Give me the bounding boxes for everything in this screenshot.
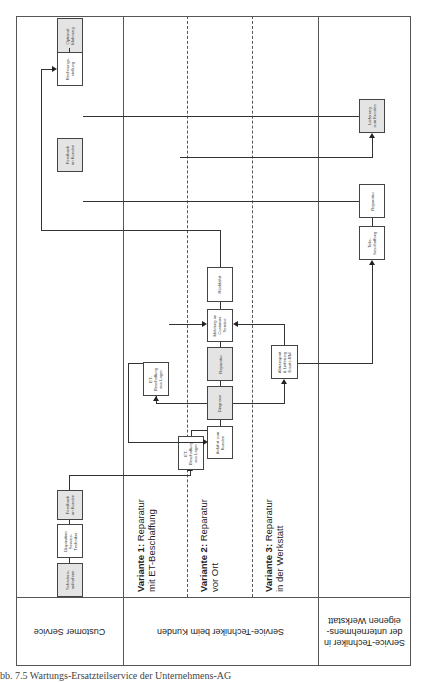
variant-label-1: Variante 1: Reparaturmit ET-Beschaffung [135, 499, 157, 592]
box-rechnungsstellung: Rechnungs- stellung [57, 52, 83, 86]
figure-caption: bb. 7.5 Wartungs-Ersatzteilservice der U… [0, 670, 231, 681]
connector-abtransport-teile-h [298, 363, 373, 364]
lane-separator-customer-service [123, 16, 124, 666]
connector-meldung-rueckfahrt [220, 302, 221, 309]
connector-abtransport-teile-v [372, 262, 373, 364]
arrow-to-et-v1 [153, 396, 159, 401]
box-lieferung-zum-kunden: Lieferung zum Kunden [359, 99, 385, 133]
connector-to-lieferung-v [372, 135, 373, 158]
connector-dispo-feedback [69, 520, 70, 524]
box-et-beschaffung-aus-lager-v1: ET- Beschaffung aus Lager [143, 362, 169, 396]
connector-rueckfahrt-h [41, 230, 221, 231]
connector-abtransport-meldung-v [284, 324, 285, 345]
box-teilebeschaffung: Teile- beschaffung [359, 226, 385, 260]
box-optional-mahnung: Optional: Mahnung [57, 18, 83, 53]
connector-feedback-to-et-lager-v [69, 475, 70, 490]
lane-header-customer-service: Customer Service [16, 597, 123, 667]
connector-et-lager-anfahrt-h [191, 430, 207, 431]
lane-header-service-techniker-werkstatt: Service-Techniker in der unternehmens- e… [318, 597, 411, 667]
box-diagnose: Diagnose [207, 386, 233, 420]
connector-feedback-to-et-lager-h [69, 475, 190, 476]
box-schadensaufnahme: Schadens- aufnahme [57, 563, 83, 597]
connector-rueckfahrt-v-left [41, 69, 42, 231]
variant-label-3: Variante 3: Reparaturin der Werkstatt [263, 499, 285, 592]
lane-header-service-techniker-kunden: Service-Techniker beim Kunden [123, 597, 318, 667]
connector-schaden-dispo [69, 558, 70, 563]
connector-et-v1-anfahrt-bottom [128, 442, 204, 443]
connector-to-lieferung-h [180, 157, 373, 158]
connector-et-v1-anfahrt-v [128, 363, 129, 443]
lane-separator-variant-2-3 [252, 16, 253, 597]
box-meldung-customer-service: Meldung an Customer Service [207, 309, 233, 342]
connector-et-v1-anfahrt-top [128, 363, 143, 364]
arrow-to-rechnungsstellung [52, 66, 57, 72]
box-feedback-initial: Feedback an Kunden [57, 490, 83, 520]
arrow-to-anfahrt [203, 439, 208, 445]
arrow-abtransport-to-meldung [233, 321, 238, 327]
connector-diagnose-abtransport-v [284, 382, 285, 404]
connector-diagnose-et-v1-h [156, 403, 207, 404]
connector-diagnose-abtransport-h [233, 403, 285, 404]
connector-et-v1-meldung-h [169, 324, 203, 325]
connector-abtransport-meldung-h [238, 324, 285, 325]
lane-separator-werkstatt [318, 16, 319, 666]
connector-reparatur-feedback2 [83, 201, 359, 202]
connector-reparatur-meldung [220, 342, 221, 347]
box-abtransport: Abtransport & Lieferung Ersatz-RM [271, 345, 298, 379]
connector-teile-reparatur [372, 218, 373, 226]
arrow-to-teilebeschaffung [369, 260, 375, 265]
connector-anfahrt-diagnose [220, 420, 221, 426]
connector-lieferung-rechnung [83, 116, 359, 117]
box-disposition: Disposition Service- Techniker [57, 524, 83, 558]
arrow-et-v1-to-meldung [202, 321, 207, 327]
arrow-to-abtransport [281, 379, 287, 384]
box-reparatur-werkstatt: Reparatur [359, 184, 385, 218]
arrow-to-lieferung [369, 133, 375, 138]
variant-label-2: Variante 2: Reparaturvor Ort [198, 499, 220, 592]
box-anfahrt: Anfahrt zum Kunden [207, 426, 233, 459]
box-reparatur: Reparatur [207, 347, 233, 381]
box-rueckfahrt: Rückfahrt [207, 267, 233, 302]
box-feedback-2: Feedback an Kunden [57, 138, 83, 172]
connector-diagnose-reparatur [220, 381, 221, 386]
connector-rueckfahrt-up [220, 230, 221, 267]
connector-rechnung-mahnung [69, 48, 70, 52]
lane-separator-variant-1-2 [187, 16, 188, 597]
